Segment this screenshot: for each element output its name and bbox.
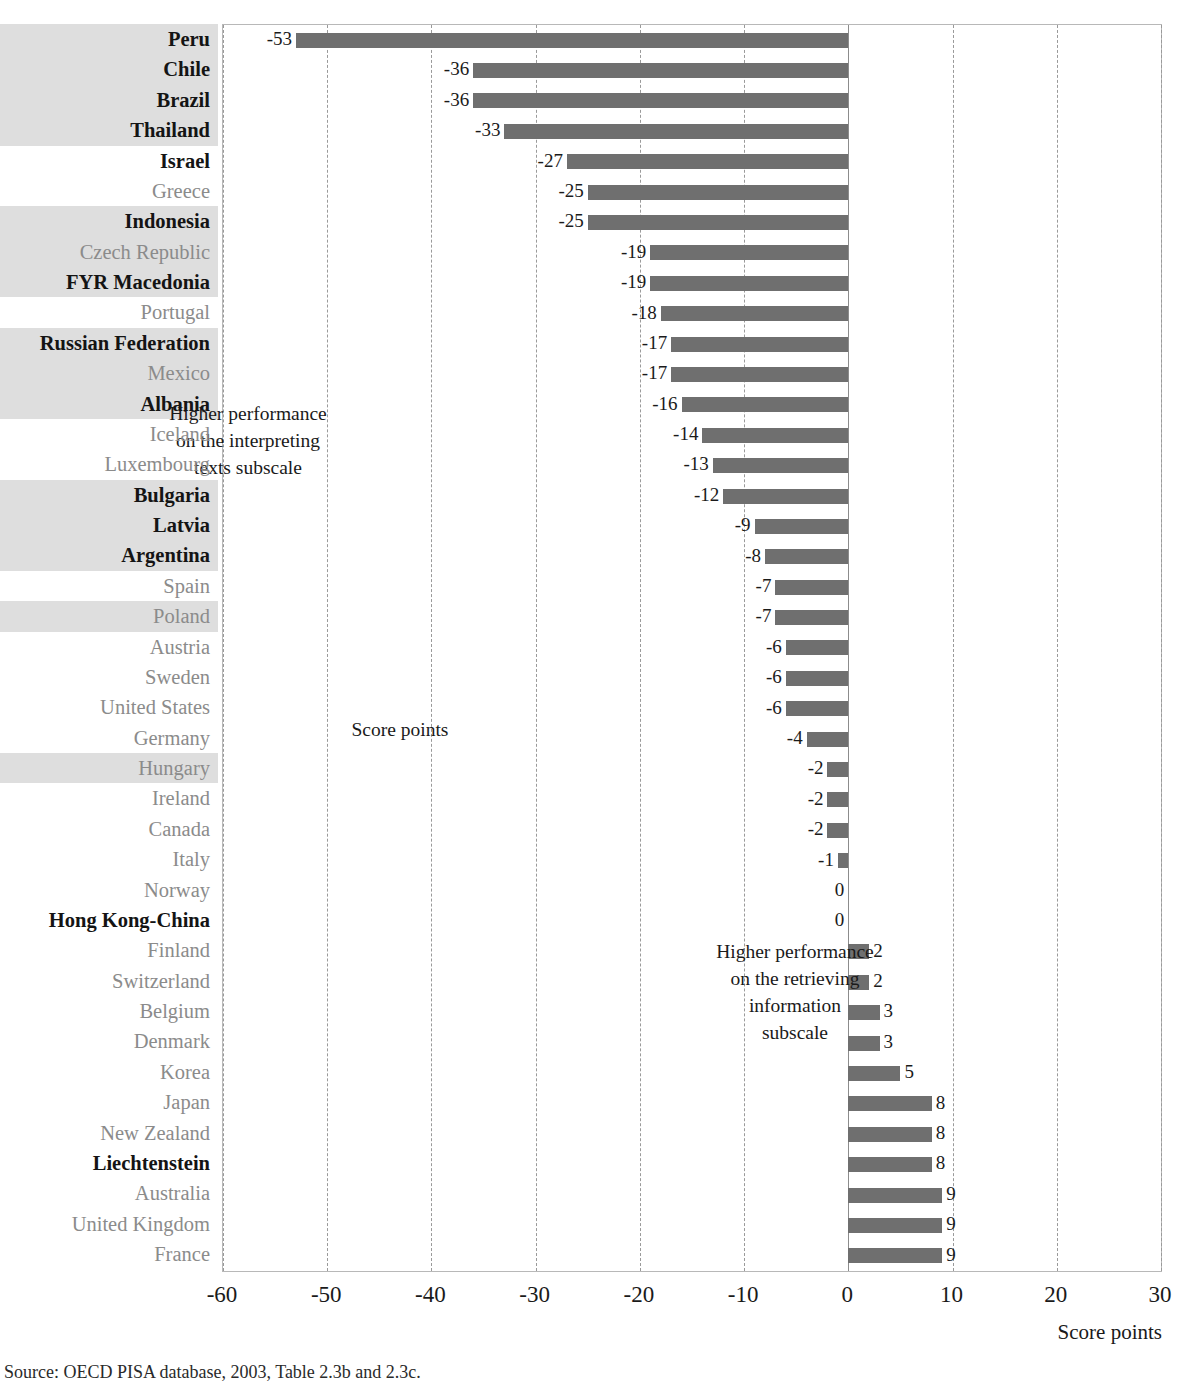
bar-value-label: -25: [558, 206, 583, 236]
bar-row: 8: [223, 1089, 1161, 1119]
bar: [588, 185, 849, 200]
x-tick-label: -40: [415, 1282, 446, 1308]
bar: [765, 549, 848, 564]
country-label-column: PeruChileBrazilThailandIsraelGreeceIndon…: [0, 24, 218, 1269]
bar: [473, 63, 848, 78]
country-label: Chile: [0, 54, 218, 84]
bar-value-label: -7: [756, 571, 772, 601]
country-label-text: Portugal: [141, 301, 210, 323]
bar: [671, 337, 848, 352]
bar-value-label: 9: [946, 1179, 956, 1209]
bar-row: 8: [223, 1149, 1161, 1179]
country-label-text: Canada: [149, 818, 210, 840]
country-label: Greece: [0, 176, 218, 206]
bar: [807, 732, 849, 747]
country-label-text: Bulgaria: [134, 484, 210, 506]
bar: [786, 701, 849, 716]
bar-row: -7: [223, 572, 1161, 602]
country-label: Poland: [0, 601, 218, 631]
country-label-text: France: [154, 1243, 210, 1265]
bar-row: -17: [223, 359, 1161, 389]
country-label: Korea: [0, 1057, 218, 1087]
bar-row: 5: [223, 1058, 1161, 1088]
country-label-text: Liechtenstein: [93, 1152, 210, 1174]
country-label: Israel: [0, 146, 218, 176]
country-label: Germany: [0, 723, 218, 753]
bar: [661, 306, 849, 321]
country-label: Finland: [0, 935, 218, 965]
country-label: Liechtenstein: [0, 1148, 218, 1178]
bar: [848, 1127, 931, 1142]
country-label-text: Japan: [163, 1091, 210, 1113]
country-label: Sweden: [0, 662, 218, 692]
bar: [682, 397, 849, 412]
country-label: Albania: [0, 389, 218, 419]
bar-row: -12: [223, 481, 1161, 511]
right-line: subscale: [680, 1019, 910, 1046]
bar-value-label: -17: [642, 358, 667, 388]
bar-value-label: -19: [621, 237, 646, 267]
bar: [567, 154, 848, 169]
bar-row: -8: [223, 542, 1161, 572]
country-label: Australia: [0, 1178, 218, 1208]
country-label-text: Italy: [172, 848, 210, 870]
bar-row: -7: [223, 602, 1161, 632]
bar: [848, 1066, 900, 1081]
bar-row: 0: [223, 906, 1161, 936]
bar: [786, 640, 849, 655]
bar-value-label: -2: [808, 784, 824, 814]
country-label: Hong Kong-China: [0, 905, 218, 935]
country-label: Switzerland: [0, 966, 218, 996]
bar-row: -36: [223, 86, 1161, 116]
plot-area: -53-36-36-33-27-25-25-19-19-18-17-17-16-…: [222, 24, 1162, 1272]
country-label-text: Chile: [163, 58, 210, 80]
country-label-text: Germany: [134, 727, 210, 749]
annotation-retrieving-information: Higher performanceon the retrievinginfor…: [680, 938, 910, 1046]
country-label-text: Russian Federation: [40, 332, 210, 354]
bar: [723, 489, 848, 504]
country-label-text: Norway: [144, 879, 210, 901]
country-label-text: Korea: [160, 1061, 210, 1083]
bar-row: -36: [223, 55, 1161, 85]
bar-row: -25: [223, 177, 1161, 207]
country-label-text: Australia: [135, 1182, 210, 1204]
country-label: Ireland: [0, 783, 218, 813]
bar: [504, 124, 848, 139]
country-label-text: Czech Republic: [80, 241, 210, 263]
bar-value-label: 8: [936, 1118, 946, 1148]
bar: [713, 458, 848, 473]
bar-row: -19: [223, 238, 1161, 268]
country-label-text: United States: [100, 696, 210, 718]
country-label: Hungary: [0, 753, 218, 783]
bar-row: -33: [223, 116, 1161, 146]
bar-row: -27: [223, 147, 1161, 177]
country-label-text: Finland: [147, 939, 210, 961]
bar-row: -6: [223, 633, 1161, 663]
bar: [848, 1157, 931, 1172]
bar: [827, 762, 848, 777]
country-label: Norway: [0, 875, 218, 905]
country-label-text: New Zealand: [100, 1122, 210, 1144]
bar: [296, 33, 848, 48]
x-tick-label: -10: [728, 1282, 759, 1308]
bar-value-label: -14: [673, 419, 698, 449]
bar: [650, 245, 848, 260]
bar-row: -19: [223, 268, 1161, 298]
country-label: Belgium: [0, 996, 218, 1026]
bar-row: -2: [223, 815, 1161, 845]
country-label: United Kingdom: [0, 1209, 218, 1239]
bar: [848, 1248, 942, 1263]
country-label-text: Iceland: [150, 423, 210, 445]
country-label-text: Poland: [153, 605, 210, 627]
bar: [755, 519, 849, 534]
bar: [671, 367, 848, 382]
bar: [588, 215, 849, 230]
x-tick-label: -50: [311, 1282, 342, 1308]
x-axis-ticks: -60-50-40-30-20-100102030: [222, 1282, 1162, 1316]
bar-value-label: -1: [818, 845, 834, 875]
bar-value-label: 0: [835, 875, 845, 905]
bar-value-label: -12: [694, 480, 719, 510]
country-label: FYR Macedonia: [0, 267, 218, 297]
bar-row: 8: [223, 1119, 1161, 1149]
